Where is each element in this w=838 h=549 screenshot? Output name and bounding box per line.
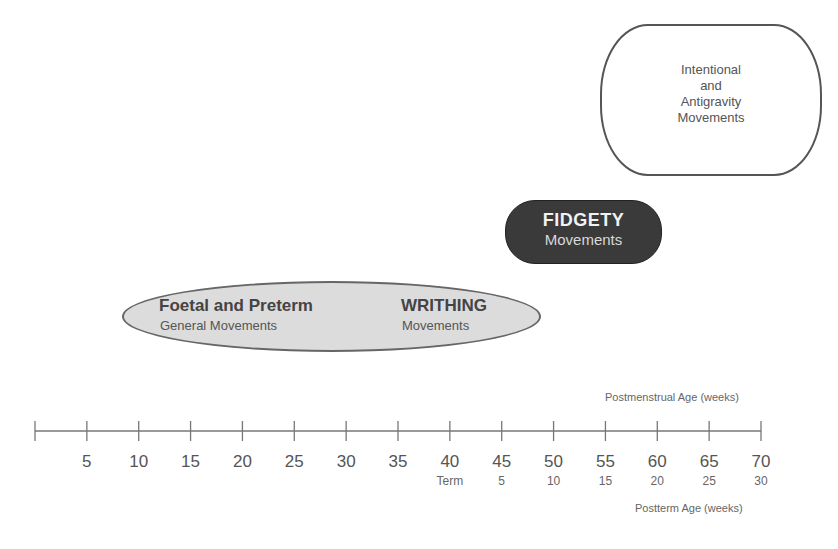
- postmenstrual-tick-label: 35: [389, 452, 408, 471]
- postterm-tick-label: 15: [599, 474, 613, 488]
- postmenstrual-tick-label: 60: [648, 452, 667, 471]
- postmenstrual-tick-label: 55: [596, 452, 615, 471]
- postmenstrual-tick-label: 65: [700, 452, 719, 471]
- postmenstrual-tick-label: 10: [129, 452, 148, 471]
- age-timeline-axis: 510152025303540455055606570Term510152025…: [0, 0, 838, 549]
- postterm-tick-label: Term: [437, 474, 464, 488]
- postterm-tick-label: 5: [498, 474, 505, 488]
- postmenstrual-tick-label: 5: [82, 452, 91, 471]
- postmenstrual-tick-label: 40: [440, 452, 459, 471]
- postterm-tick-label: 25: [702, 474, 716, 488]
- postterm-tick-label: 10: [547, 474, 561, 488]
- postterm-tick-label: 30: [754, 474, 768, 488]
- postmenstrual-tick-label: 70: [752, 452, 771, 471]
- postmenstrual-tick-label: 25: [285, 452, 304, 471]
- postmenstrual-tick-label: 30: [337, 452, 356, 471]
- postmenstrual-tick-label: 15: [181, 452, 200, 471]
- postmenstrual-tick-label: 50: [544, 452, 563, 471]
- postmenstrual-tick-label: 45: [492, 452, 511, 471]
- postmenstrual-tick-label: 20: [233, 452, 252, 471]
- postterm-tick-label: 20: [651, 474, 665, 488]
